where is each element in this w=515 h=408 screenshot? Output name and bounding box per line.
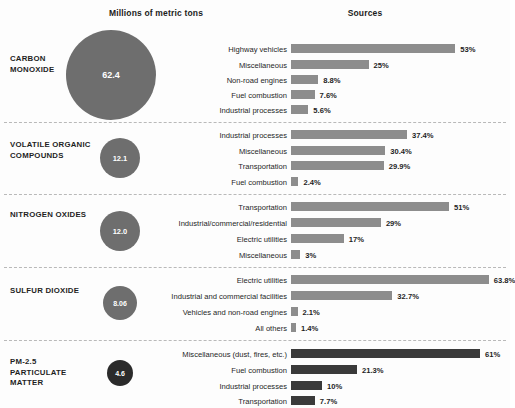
- bar-value-label: 7.7%: [320, 397, 337, 406]
- bar-category-label: Electric utilities: [237, 235, 287, 244]
- bar-value-label: 32.7%: [397, 292, 419, 301]
- bar-fill: [291, 146, 385, 155]
- bar-fill: [291, 218, 381, 227]
- bar-category-label: Industrial/commercial/residential: [179, 219, 287, 228]
- section-divider: [4, 194, 506, 195]
- section-divider: [4, 340, 506, 341]
- bar-category-label: Fuel combustion: [231, 366, 287, 375]
- bar-value-label: 1.4%: [301, 324, 318, 333]
- bar-value-label: 10%: [327, 382, 342, 391]
- bar-value-label: 2.1%: [303, 308, 320, 317]
- bar-category-label: Industrial and commercial facilities: [171, 292, 287, 301]
- bar-category-label: Industrial processes: [219, 382, 287, 391]
- bar-value-label: 53%: [460, 45, 475, 54]
- bar-fill: [291, 323, 296, 332]
- bar-value-label: 30.4%: [390, 147, 412, 156]
- bar-value-label: 5.6%: [313, 106, 330, 115]
- bar-category-label: Fuel combustion: [231, 91, 287, 100]
- bar-fill: [291, 365, 357, 374]
- header-sources: Sources: [300, 8, 430, 18]
- total-bubble: 12.0: [100, 211, 140, 251]
- bar-value-label: 17%: [349, 235, 364, 244]
- bar-category-label: Highway vehicles: [228, 45, 287, 54]
- bar-value-label: 37.4%: [412, 131, 434, 140]
- bar-category-label: All others: [255, 324, 287, 333]
- bar-fill: [291, 130, 407, 139]
- bar-fill: [291, 75, 318, 84]
- bar-fill: [291, 349, 480, 358]
- bar-fill: [291, 161, 384, 170]
- bar-fill: [291, 44, 455, 53]
- bar-category-label: Electric utilities: [237, 276, 287, 285]
- bar-value-label: 3%: [305, 251, 316, 260]
- pollutant-name: SULFUR DIOXIDE: [10, 286, 92, 297]
- bar-fill: [291, 250, 300, 259]
- bar-fill: [291, 105, 308, 114]
- bar-value-label: 51%: [454, 203, 469, 212]
- bar-value-label: 8.8%: [323, 76, 340, 85]
- bar-fill: [291, 307, 298, 316]
- bar-fill: [291, 202, 449, 211]
- bar-category-label: Miscellaneous: [239, 251, 287, 260]
- bar-category-label: Miscellaneous (dust, fires, etc.): [182, 350, 287, 359]
- bar-fill: [291, 177, 298, 186]
- section-divider: [4, 122, 506, 123]
- bar-category-label: Non-road engines: [227, 76, 287, 85]
- bar-value-label: 2.4%: [303, 178, 320, 187]
- pollutant-name: VOLATILE ORGANIC COMPOUNDS: [10, 140, 92, 161]
- bar-fill: [291, 60, 369, 69]
- bar-category-label: Industrial processes: [219, 131, 287, 140]
- pollutant-name: PM-2.5 PARTICULATE MATTER: [10, 357, 92, 389]
- total-bubble: 4.6: [107, 360, 133, 386]
- bar-value-label: 61%: [485, 350, 500, 359]
- bar-category-label: Vehicles and non-road engines: [183, 308, 287, 317]
- bar-category-label: Miscellaneous: [239, 147, 287, 156]
- bar-category-label: Transportation: [238, 203, 287, 212]
- bar-category-label: Fuel combustion: [231, 178, 287, 187]
- total-bubble: 12.1: [100, 138, 140, 178]
- bar-category-label: Transportation: [238, 397, 287, 406]
- header-millions-of-metric-tons: Millions of metric tons: [66, 8, 246, 18]
- bar-value-label: 63.8%: [494, 276, 515, 285]
- bar-category-label: Industrial processes: [219, 106, 287, 115]
- bar-fill: [291, 275, 489, 284]
- section-divider: [4, 267, 506, 268]
- bar-value-label: 21.3%: [362, 366, 384, 375]
- bar-category-label: Miscellaneous: [239, 61, 287, 70]
- bar-fill: [291, 90, 315, 99]
- bar-value-label: 29.9%: [389, 162, 411, 171]
- total-bubble: 8.06: [103, 286, 137, 320]
- bar-fill: [291, 396, 315, 405]
- bar-fill: [291, 291, 392, 300]
- bar-value-label: 7.6%: [320, 91, 337, 100]
- pollutant-name: NITROGEN OXIDES: [10, 210, 92, 221]
- bar-value-label: 25%: [374, 61, 389, 70]
- bar-fill: [291, 381, 322, 390]
- total-bubble: 62.4: [66, 30, 156, 120]
- bar-value-label: 29%: [386, 219, 401, 228]
- bar-fill: [291, 234, 344, 243]
- bar-category-label: Transportation: [238, 162, 287, 171]
